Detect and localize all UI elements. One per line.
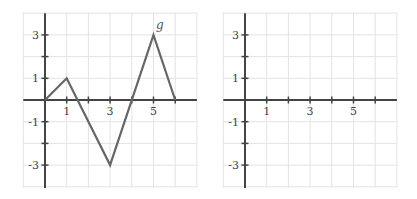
right-y-label-3: 3 (232, 29, 239, 42)
right-y-label-neg1: -1 (228, 116, 239, 129)
right-x-label-1: 1 (263, 105, 270, 118)
chart-canvas: 1 3 5 3 1 -1 -3 g (0, 0, 417, 199)
right-graph: 1 3 5 3 1 -1 -3 (223, 13, 397, 188)
left-y-label-neg1: -1 (28, 116, 39, 129)
function-g-label: g (156, 18, 164, 32)
left-y-label-1: 1 (32, 72, 39, 85)
left-graph: 1 3 5 3 1 -1 -3 g (23, 13, 197, 188)
left-x-label-5: 5 (150, 105, 157, 118)
left-x-label-3: 3 (107, 105, 114, 118)
right-x-label-5: 5 (350, 105, 357, 118)
left-x-label-1: 1 (63, 105, 70, 118)
left-y-label-neg3: -3 (28, 159, 39, 172)
left-y-label-3: 3 (32, 29, 39, 42)
right-y-label-neg3: -3 (228, 159, 239, 172)
right-y-label-1: 1 (232, 72, 239, 85)
right-x-label-3: 3 (307, 105, 314, 118)
